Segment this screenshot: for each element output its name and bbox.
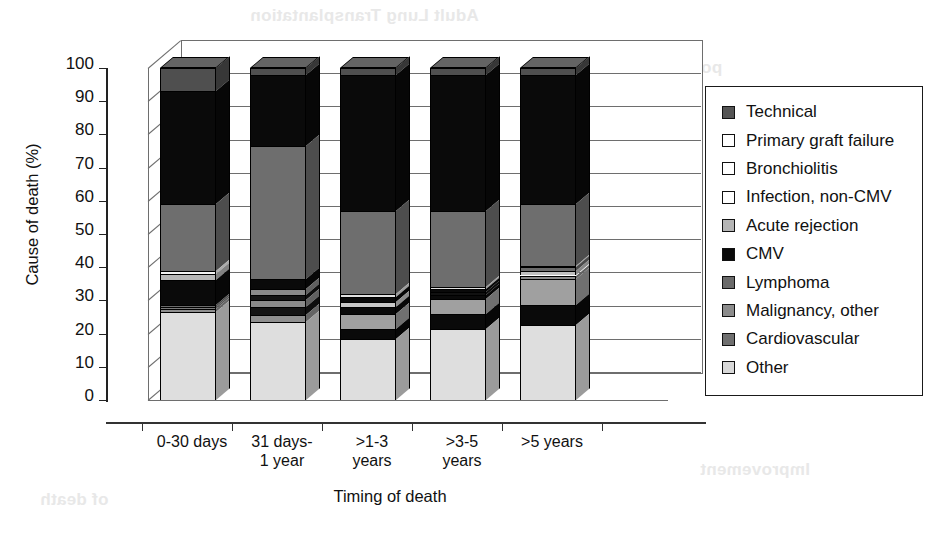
- legend-swatch-icon: [722, 276, 735, 289]
- x-tick-mark: [602, 422, 603, 431]
- bar-segment: [250, 300, 306, 307]
- legend-item[interactable]: Lymphoma: [706, 268, 922, 296]
- bar-side-segment: [486, 200, 499, 287]
- bar-segment: [250, 307, 306, 315]
- stacked-bar-chart: Cause of death (%) 010203040506070809010…: [0, 0, 948, 534]
- bar-segment: [430, 68, 486, 75]
- legend-label: Technical: [746, 102, 817, 122]
- chart-legend: TechnicalPrimary graft failureBronchioli…: [705, 86, 923, 396]
- bar-side-segment: [486, 64, 499, 211]
- legend-label: Cardiovascular: [746, 329, 859, 349]
- y-tick-label: 50: [28, 225, 94, 235]
- legend-item[interactable]: Other: [706, 354, 922, 382]
- bar-side-face: [486, 56, 500, 400]
- bar-side-segment: [486, 318, 499, 400]
- y-tick-label: 100: [28, 59, 94, 69]
- x-tick-mark: [412, 422, 413, 431]
- legend-swatch-icon: [722, 219, 735, 232]
- legend-item[interactable]: CMV: [706, 240, 922, 268]
- legend-label: Malignancy, other: [746, 301, 879, 321]
- legend-item[interactable]: Technical: [706, 98, 922, 126]
- y-tick-label: 20: [28, 325, 94, 335]
- bar-side-face: [216, 56, 230, 400]
- bar-3: [340, 68, 396, 400]
- bar-segment: [160, 274, 216, 281]
- bar-segment: [250, 75, 306, 146]
- x-tick-mark: [142, 422, 143, 431]
- bar-segment: [340, 75, 396, 211]
- x-tick-mark: [502, 422, 503, 431]
- legend-item[interactable]: Acute rejection: [706, 212, 922, 240]
- y-axis-title: Cause of death (%): [23, 65, 42, 365]
- x-tick-mark: [322, 422, 323, 431]
- y-tick-label: 40: [28, 258, 94, 268]
- bar-segment: [340, 307, 396, 314]
- bar-side-segment: [396, 64, 409, 211]
- legend-item[interactable]: Malignancy, other: [706, 297, 922, 325]
- bar-segment: [430, 329, 486, 400]
- bar-side-segment: [306, 135, 319, 279]
- bar-segment: [160, 204, 216, 270]
- legend-item[interactable]: Bronchiolitis: [706, 155, 922, 183]
- legend-swatch-icon: [722, 304, 735, 317]
- legend-swatch-icon: [722, 106, 735, 119]
- bar-side-segment: [216, 80, 229, 204]
- bar-segment: [520, 204, 576, 265]
- bar-segment: [430, 75, 486, 211]
- y-tick-label: 90: [28, 92, 94, 102]
- bar-segment: [520, 279, 576, 306]
- x-tick-label-line2: years: [402, 451, 522, 470]
- y-axis-line-front: [148, 68, 150, 400]
- bar-segment: [520, 75, 576, 204]
- bar-segment: [520, 325, 576, 400]
- bar-4: [430, 68, 486, 400]
- bar-segment: [250, 315, 306, 322]
- bar-side-face: [396, 56, 410, 400]
- bar-2: [250, 68, 306, 400]
- bar-segment: [250, 146, 306, 279]
- bar-5: [520, 68, 576, 400]
- bar-side-segment: [306, 311, 319, 400]
- legend-label: Lymphoma: [746, 273, 829, 293]
- legend-swatch-icon: [722, 134, 735, 147]
- legend-item[interactable]: Infection, non-CMV: [706, 183, 922, 211]
- bar-segment: [340, 211, 396, 294]
- bar-1: [160, 68, 216, 400]
- legend-item[interactable]: Cardiovascular: [706, 325, 922, 353]
- legend-swatch-icon: [722, 333, 735, 346]
- bar-segment: [430, 211, 486, 287]
- x-axis-title: Timing of death: [240, 487, 540, 506]
- bar-segment: [160, 280, 216, 305]
- legend-label: Primary graft failure: [746, 131, 894, 151]
- plot-floor-front-edge: [148, 400, 668, 401]
- bar-segment: [250, 279, 306, 289]
- x-tick-label: >5 years: [492, 432, 612, 451]
- x-tick-label-line1: >5 years: [492, 432, 612, 451]
- bar-side-segment: [576, 314, 589, 400]
- bar-segment: [520, 68, 576, 75]
- bar-side-segment: [306, 64, 319, 146]
- bar-segment: [160, 312, 216, 400]
- y-tick-label: 10: [28, 358, 94, 368]
- legend-swatch-icon: [722, 162, 735, 175]
- legend-label: Other: [746, 358, 789, 378]
- bar-side-segment: [576, 64, 589, 204]
- gridline: [181, 40, 701, 41]
- legend-label: Bronchiolitis: [746, 159, 838, 179]
- y-axis-ruler: [106, 68, 108, 402]
- bar-segment: [340, 329, 396, 339]
- legend-label: Infection, non-CMV: [746, 187, 892, 207]
- bar-segment: [340, 314, 396, 329]
- bar-segment: [340, 68, 396, 75]
- y-tick-label: 70: [28, 159, 94, 169]
- y-tick-label: 30: [28, 291, 94, 301]
- x-tick-mark: [232, 422, 233, 431]
- y-tick-label: 60: [28, 192, 94, 202]
- bar-side-segment: [396, 328, 409, 400]
- bar-segment: [340, 339, 396, 400]
- legend-swatch-icon: [722, 248, 735, 261]
- legend-item[interactable]: Primary graft failure: [706, 126, 922, 154]
- bar-segment: [250, 289, 306, 296]
- bar-side-segment: [216, 301, 229, 400]
- legend-swatch-icon: [722, 191, 735, 204]
